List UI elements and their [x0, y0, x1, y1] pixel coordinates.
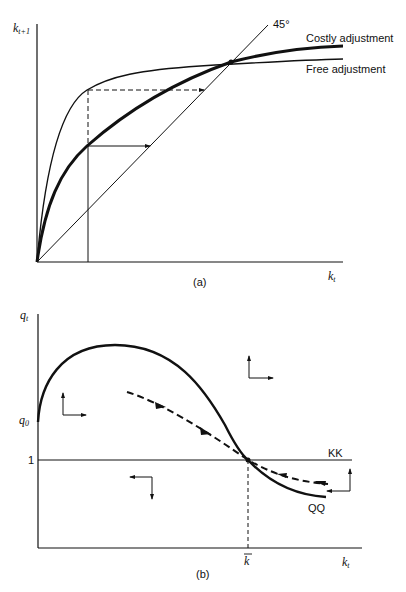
label-free-adjustment: Free adjustment	[306, 63, 385, 75]
tick-label-kbar: k	[244, 554, 250, 568]
phase-arrows-lower-left	[130, 477, 152, 499]
panel-a-y-label: kt+1	[13, 21, 30, 36]
phase-arrows-lower-right	[327, 469, 350, 491]
label-qq: QQ	[308, 502, 326, 514]
label-costly-adjustment: Costly adjustment	[306, 32, 393, 44]
caption-b: (b)	[196, 568, 209, 580]
saddle-arrow-3	[277, 473, 287, 478]
panel-b: qt kt q0 1 k KK QQ	[19, 308, 362, 580]
saddle-arrow-2	[200, 427, 211, 435]
label-45-degree: 45°	[273, 18, 290, 30]
panel-a: kt+1 kt 45° Costly adjustment Free adjus…	[13, 18, 393, 288]
panel-b-x-label: kt	[342, 555, 350, 570]
panel-a-x-label: kt	[328, 269, 336, 284]
label-kk: KK	[328, 447, 343, 459]
tick-label-one: 1	[28, 454, 34, 466]
figure: kt+1 kt 45° Costly adjustment Free adjus…	[0, 0, 406, 592]
steady-state-point-a	[229, 60, 234, 65]
tick-label-q0: q0	[19, 413, 29, 428]
caption-a: (a)	[193, 276, 206, 288]
costly-adjustment-curve	[37, 46, 343, 262]
phase-arrows-upper-left	[63, 393, 86, 415]
panel-b-y-label: qt	[20, 308, 29, 323]
free-adjustment-curve	[37, 59, 343, 262]
phase-arrows-upper-right	[249, 356, 273, 378]
saddle-arrow-1	[155, 402, 166, 409]
